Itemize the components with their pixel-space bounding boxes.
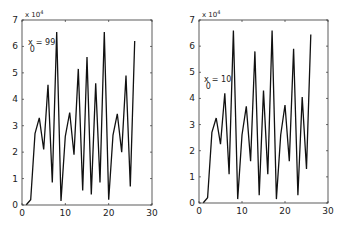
left-series-line [26, 32, 134, 205]
y-tick-label: 7 [189, 15, 195, 25]
left-annotation: x0= 99 [28, 38, 55, 54]
figure: 010203001234567 x 104 x0= 99 01020300123… [0, 0, 348, 229]
x-tick-label: 10 [60, 208, 72, 218]
y-tick-label: 2 [12, 147, 18, 157]
y-tick-label: 1 [12, 174, 18, 184]
y-tick-label: 2 [189, 146, 195, 156]
x-tick-label: 0 [19, 208, 25, 218]
x-tick-label: 0 [196, 206, 202, 216]
right-ticks: 010203001234567 [189, 15, 334, 216]
x-tick-label: 30 [146, 208, 158, 218]
y-tick-label: 3 [12, 121, 18, 131]
right-series-line [203, 31, 310, 203]
right-subplot: 010203001234567 x 104 x0= 10 [189, 9, 334, 216]
right-exponent-label: x 104 [202, 9, 220, 19]
left-subplot: 010203001234567 x 104 x0= 99 [12, 9, 158, 218]
x-tick-label: 20 [103, 208, 115, 218]
y-tick-label: 5 [189, 67, 195, 77]
y-tick-label: 5 [12, 68, 18, 78]
y-tick-label: 0 [189, 198, 195, 208]
y-tick-label: 6 [189, 41, 195, 51]
y-tick-label: 1 [189, 172, 195, 182]
left-exponent-label: x 104 [25, 9, 43, 19]
x-tick-label: 20 [279, 206, 291, 216]
right-annotation: x0= 10 [204, 75, 231, 91]
y-tick-label: 0 [12, 200, 18, 210]
y-tick-label: 4 [189, 93, 195, 103]
y-tick-label: 4 [12, 94, 18, 104]
y-tick-label: 3 [189, 120, 195, 130]
x-tick-label: 30 [322, 206, 334, 216]
y-tick-label: 7 [12, 15, 18, 25]
x-tick-label: 10 [236, 206, 248, 216]
y-tick-label: 6 [12, 41, 18, 51]
